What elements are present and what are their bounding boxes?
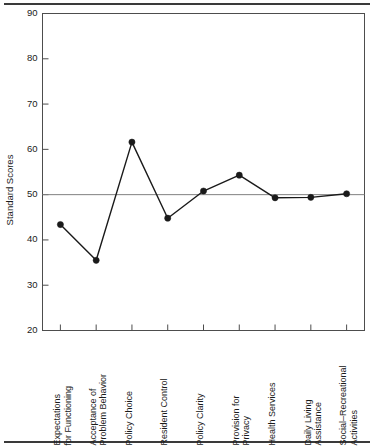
- x-axis-labels: Expectationsfor FunctioningAcceptance of…: [52, 365, 359, 445]
- x-tick-label: Policy Choice: [124, 391, 134, 446]
- y-tick-label: 70: [27, 98, 38, 109]
- y-tick-label: 80: [27, 52, 38, 63]
- x-tick-label: Assistance: [313, 402, 323, 446]
- data-point-marker: [308, 194, 314, 200]
- data-point-marker: [129, 139, 135, 145]
- plot-area-frame: [43, 14, 365, 331]
- x-tick-label: Resident Control: [159, 378, 169, 445]
- x-tick-label: Privacy: [241, 415, 251, 445]
- x-tick-label: Social–Recreational: [338, 365, 348, 445]
- y-tick-label: 20: [27, 324, 38, 335]
- y-tick-label: 60: [27, 143, 38, 154]
- x-tick-label: Policy Clarity: [195, 393, 205, 446]
- x-tick-label: Provision for: [231, 395, 241, 445]
- data-point-marker: [344, 191, 350, 197]
- chart-figure: 2030405060708090 Expectationsfor Functio…: [0, 0, 374, 448]
- data-point-marker: [165, 215, 171, 221]
- data-point-marker: [57, 221, 63, 227]
- data-point-marker: [272, 195, 278, 201]
- x-tick-label: Acceptance of: [88, 388, 98, 446]
- y-tick-label: 40: [27, 233, 38, 244]
- y-tick-label: 90: [27, 7, 38, 18]
- x-tick-label: Health Services: [267, 382, 277, 446]
- standard-scores-line-chart: 2030405060708090 Expectationsfor Functio…: [0, 0, 374, 448]
- x-tick-label: Activities: [349, 409, 359, 445]
- x-tick-label: Daily Living: [303, 399, 313, 445]
- data-point-marker: [93, 257, 99, 263]
- y-tick-label: 50: [27, 188, 38, 199]
- data-point-marker: [236, 172, 242, 178]
- x-tick-label: Expectations: [52, 393, 62, 445]
- y-tick-label: 30: [27, 279, 38, 290]
- data-point-marker: [200, 188, 206, 194]
- y-axis-title: Standard Scores: [4, 154, 15, 225]
- x-tick-label: Problem Behavior: [98, 374, 108, 446]
- x-tick-label: for Functioning: [63, 386, 73, 446]
